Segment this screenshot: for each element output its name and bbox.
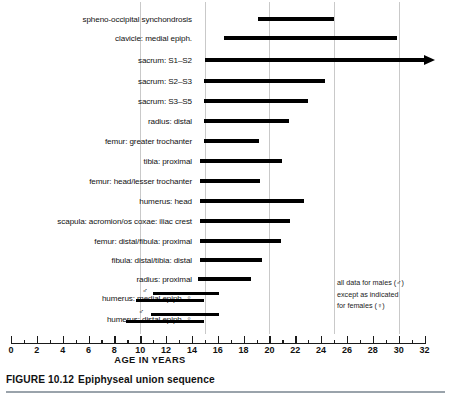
row-label: clavicle: medial epiph. [115, 33, 192, 44]
range-bar [200, 239, 281, 243]
chart-row: humerus: head [0, 196, 451, 214]
chart-row: sacrum: S1–S2 [0, 55, 451, 73]
axis-tick-23 [308, 340, 309, 345]
chart-row: femur: greater trochanter [0, 136, 451, 154]
axis-tick-28 [373, 336, 374, 344]
axis-tick-2 [37, 336, 38, 344]
axis-tick-31 [412, 340, 413, 345]
chart-row: sacrum: S2–S3 [0, 76, 451, 94]
open-ended-arrow-icon [424, 55, 435, 65]
axis-tick-label: 30 [394, 345, 404, 356]
range-bar [204, 79, 325, 83]
legend-note-line-3: for females (♀) [337, 300, 445, 312]
axis-tick-29 [386, 340, 387, 345]
axis-tick-10 [140, 336, 141, 344]
axis-tick-15 [205, 340, 206, 345]
range-bar [151, 313, 219, 316]
axis-tick-0 [11, 336, 12, 344]
range-bar [136, 299, 203, 302]
row-label: radius: proximal [136, 274, 192, 285]
chart-row: sacrum: S3–S5 [0, 96, 451, 114]
row-label: radius: distal [148, 116, 192, 127]
axis-tick-11 [153, 340, 154, 345]
row-label: scapula: acromion/os coxae: iliac crest [57, 216, 192, 227]
axis-tick-18 [244, 336, 245, 344]
figure-caption-number: FIGURE 10.12 [6, 374, 74, 385]
legend-note-line-2: except as indicated [337, 289, 445, 301]
range-bar [205, 58, 425, 62]
chart-row: scapula: acromion/os coxae: iliac crest [0, 216, 451, 234]
chart-row: femur: head/lesser trochanter [0, 176, 451, 194]
axis-tick-16 [218, 336, 219, 344]
range-bar [153, 292, 219, 295]
chart-row: femur: distal/fibula: proximal [0, 236, 451, 254]
axis-tick-22 [295, 336, 296, 344]
figure-caption: FIGURE 10.12Epiphyseal union sequence [6, 374, 215, 385]
axis-tick-21 [282, 340, 283, 345]
axis-tick-label: 28 [368, 345, 378, 356]
male-symbol-icon: ♂ [142, 287, 148, 295]
caption-divider [6, 391, 445, 393]
axis-tick-4 [63, 336, 64, 344]
axis-tick-20 [269, 336, 270, 344]
axis-tick-26 [347, 336, 348, 344]
range-bar [200, 159, 283, 163]
row-label: sacrum: S3–S5 [138, 96, 192, 107]
axis-tick-label: 32 [419, 345, 429, 356]
legend-note: all data for males (♂) except as indicat… [337, 277, 445, 312]
range-bar [224, 36, 397, 40]
axis-title: AGE IN YEARS [0, 355, 300, 365]
axis-tick-19 [257, 340, 258, 345]
axis-tick-17 [231, 340, 232, 345]
axis-tick-24 [321, 336, 322, 344]
axis-tick-25 [334, 340, 335, 345]
range-bar [198, 277, 251, 281]
chart-row: fibula: distal/tibia: distal [0, 255, 451, 273]
row-label: sacrum: S1–S2 [138, 55, 192, 66]
row-label: femur: distal/fibula: proximal [94, 236, 192, 247]
axis-tick-12 [166, 336, 167, 344]
legend-note-line-1: all data for males (♂) [337, 277, 445, 289]
row-label: femur: head/lesser trochanter [89, 176, 192, 187]
figure-caption-text: Epiphyseal union sequence [78, 374, 215, 385]
row-label: tibia: proximal [144, 156, 192, 167]
range-bar [200, 219, 290, 223]
axis-tick-9 [127, 340, 128, 345]
axis-tick-14 [192, 336, 193, 344]
axis-tick-32 [425, 336, 426, 344]
range-bar [204, 139, 260, 143]
row-label: sacrum: S2–S3 [138, 76, 192, 87]
range-bar [204, 119, 289, 123]
row-label: humerus: head [139, 196, 192, 207]
axis-tick-label: 26 [342, 345, 352, 356]
chart-row: humerus: distal epiph. ♀♂ [0, 314, 451, 332]
row-label: spheno-occipital synchondrosis [83, 14, 192, 25]
axis-tick-8 [114, 336, 115, 344]
range-bar [200, 258, 262, 262]
male-symbol-icon: ♂ [138, 308, 144, 316]
axis-tick-7 [101, 340, 102, 345]
axis-tick-30 [399, 336, 400, 344]
range-bar [204, 99, 309, 103]
figure-epiphyseal-union-sequence: spheno-occipital synchondrosisclavicle: … [0, 0, 451, 400]
range-bar [200, 199, 305, 203]
axis-tick-5 [76, 340, 77, 345]
axis-tick-label: 24 [316, 345, 326, 356]
row-label: fibula: distal/tibia: distal [112, 255, 192, 266]
axis-tick-6 [89, 336, 90, 344]
axis-tick-1 [24, 340, 25, 345]
range-bar [126, 320, 204, 323]
chart-row: clavicle: medial epiph. [0, 33, 451, 51]
chart-row: spheno-occipital synchondrosis [0, 14, 451, 32]
range-bar [200, 179, 261, 183]
chart-row: radius: distal [0, 116, 451, 134]
range-bar [258, 17, 334, 21]
axis-tick-3 [50, 340, 51, 345]
axis-tick-27 [360, 340, 361, 345]
row-label: femur: greater trochanter [105, 136, 192, 147]
chart-row: tibia: proximal [0, 156, 451, 174]
axis-tick-13 [179, 340, 180, 345]
